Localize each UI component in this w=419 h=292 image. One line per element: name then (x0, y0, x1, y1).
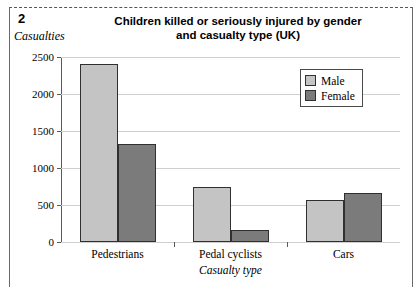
figure-number: 2 (18, 12, 25, 26)
y-tick-label: 500 (8, 200, 54, 211)
x-axis-title: Casualty type (61, 264, 400, 276)
x-tick-label: Pedal cyclists (174, 248, 287, 260)
bar-pedestrians-female (118, 144, 156, 242)
y-tick-label: 2000 (8, 89, 54, 100)
figure-border-right (412, 7, 413, 287)
y-tick-label: 0 (8, 237, 54, 248)
chart-title: Children killed or seriously injured by … (88, 14, 388, 42)
legend-label-male: Male (321, 75, 345, 87)
bar-pedestrians-male (80, 64, 118, 242)
bar-pedal-cyclists-female (231, 230, 269, 242)
legend-swatch-female-icon (305, 90, 316, 101)
y-tick-label: 1000 (8, 163, 54, 174)
y-tick-label: 2500 (8, 52, 54, 63)
gridline (61, 57, 400, 58)
figure-container: 2 Casualties Children killed or seriousl… (0, 0, 419, 292)
bar-cars-male (306, 200, 344, 242)
y-tick-mark (57, 57, 61, 58)
chart-title-line-1: Children killed or seriously injured by … (114, 15, 361, 27)
legend-swatch-male-icon (305, 75, 316, 86)
bar-cars-female (344, 193, 382, 242)
chart-legend: Male Female (300, 69, 363, 107)
chart-title-line-2: and casualty type (UK) (176, 29, 300, 41)
y-axis-title: Casualties (14, 30, 65, 43)
y-tick-mark (57, 205, 61, 206)
y-tick-mark (57, 168, 61, 169)
x-tick-mark (174, 242, 175, 247)
legend-label-female: Female (321, 90, 355, 102)
x-tick-mark (287, 242, 288, 247)
y-axis-line (61, 57, 62, 242)
y-tick-label: 1500 (8, 126, 54, 137)
x-tick-label: Cars (287, 248, 400, 260)
bar-pedal-cyclists-male (193, 187, 231, 243)
legend-item-male[interactable]: Male (305, 73, 355, 88)
x-tick-label: Pedestrians (61, 248, 174, 260)
y-tick-mark (57, 242, 61, 243)
figure-border-top (9, 7, 413, 8)
y-tick-mark (57, 94, 61, 95)
legend-item-female[interactable]: Female (305, 88, 355, 103)
y-tick-mark (57, 131, 61, 132)
gridline (61, 242, 400, 243)
